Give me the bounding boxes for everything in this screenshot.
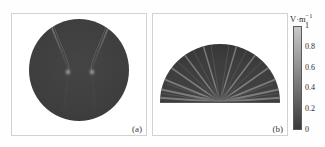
disc-region: [29, 19, 129, 121]
figure-root: (a): [0, 0, 325, 147]
colorbar-tick: 0.2: [305, 105, 315, 113]
colorbar-tick: 0.4: [305, 84, 315, 92]
panel-a: (a): [11, 13, 147, 136]
panel-a-label: (a): [132, 124, 142, 134]
colorbar-tick: 0.8: [305, 43, 315, 51]
colorbar-tick: 0: [305, 126, 309, 134]
panel-b-label: (b): [273, 124, 284, 134]
colorbar-tick: 0.6: [305, 64, 315, 72]
panel-b-plot: [153, 14, 287, 135]
colorbar-tick-labels: 1 0.8 0.6 0.4 0.2 0: [305, 26, 325, 130]
hotspot-right: [90, 69, 94, 74]
panel-a-plot: [12, 14, 146, 135]
colorbar-unit-text: V·m: [290, 14, 306, 24]
colorbar-unit-exponent: −1: [306, 12, 313, 19]
radial-streaks: [160, 44, 280, 102]
panel-b: (b): [152, 13, 288, 136]
colorbar: V·m−1 1 0.8 0.6 0.4 0.2 0: [290, 14, 325, 136]
hotspot-left: [66, 69, 70, 74]
colorbar-unit-label: V·m−1: [290, 14, 313, 24]
colorbar-tick: 1: [305, 22, 309, 30]
colorbar-gradient: [293, 26, 302, 130]
